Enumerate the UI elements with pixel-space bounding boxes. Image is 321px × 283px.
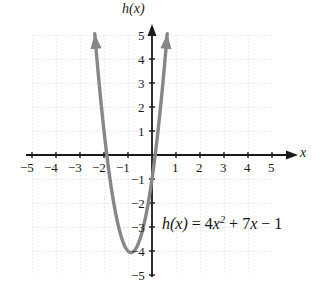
y-tick-label-5: 5 (138, 29, 145, 42)
x-tick-label-neg3: −3 (68, 161, 82, 174)
x-tick-label-5: 5 (268, 161, 275, 174)
x-tick-label-1: 1 (172, 161, 179, 174)
equation-function-name: h (162, 215, 170, 232)
y-tick-label-neg2: −2 (131, 197, 145, 210)
equation-equals: = (192, 215, 201, 232)
equation-annotation: h(x) = 4x2 + 7x − 1 (162, 215, 282, 232)
y-tick-label-neg4: −4 (131, 245, 145, 258)
equation-argument: (x) (170, 215, 188, 232)
equation-term1-coef: 4 (205, 215, 213, 232)
x-tick-label-4: 4 (244, 161, 251, 174)
x-tick-label-2: 2 (196, 161, 203, 174)
x-tick-label-neg1: −1 (116, 161, 130, 174)
y-tick-label-neg1: −1 (131, 173, 145, 186)
y-tick-label-1: 1 (138, 125, 145, 138)
y-tick-label-3: 3 (138, 77, 145, 90)
y-tick-label-neg3: −3 (131, 221, 145, 234)
y-tick-label-neg5: −5 (131, 269, 145, 282)
y-tick-label-4: 4 (138, 53, 145, 66)
x-tick-label-neg4: −4 (44, 161, 58, 174)
x-tick-label-neg5: −5 (20, 161, 34, 174)
x-axis-label: x (300, 146, 306, 160)
equation-term1-exponent: 2 (220, 214, 225, 225)
equation-term2-coef: 7 (242, 215, 250, 232)
equation-term1-var: x (213, 215, 220, 232)
y-tick-label-2: 2 (138, 101, 145, 114)
equation-plus: + (229, 215, 238, 232)
equation-constant: 1 (274, 215, 282, 232)
x-tick-label-neg2: −2 (92, 161, 106, 174)
y-axis-label: h(x) (122, 2, 145, 16)
x-tick-label-3: 3 (220, 161, 227, 174)
equation-minus: − (261, 215, 270, 232)
equation-term2-var: x (250, 215, 257, 232)
